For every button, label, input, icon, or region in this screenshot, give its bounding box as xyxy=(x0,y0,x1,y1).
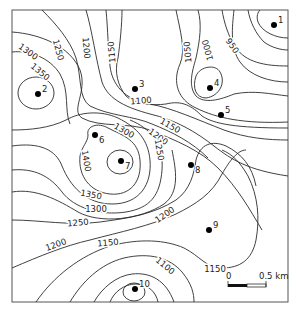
contour-label: 1050 xyxy=(182,41,194,63)
sample-point-marker xyxy=(92,132,98,138)
contour-label: 1250 xyxy=(67,217,89,229)
map-frame xyxy=(12,10,288,302)
contour-label: 1300 xyxy=(17,41,40,62)
contour-label: 1100 xyxy=(154,255,177,277)
sample-point-marker xyxy=(188,162,194,168)
sample-point-label: 6 xyxy=(99,135,104,145)
sample-point-label: 8 xyxy=(195,165,200,175)
sample-point-marker xyxy=(132,286,138,292)
contour-label: 1300 xyxy=(85,204,107,214)
contour-map: 1300135012501200115010501000950110011501… xyxy=(0,0,300,310)
contour-label: 1150 xyxy=(106,41,118,63)
contour-label: 1400 xyxy=(80,149,94,172)
sample-point-marker xyxy=(132,86,138,92)
sample-point-label: 5 xyxy=(225,105,230,115)
sample-point-marker xyxy=(35,91,41,97)
sample-point-label: 10 xyxy=(139,279,150,289)
contour-label: 1200 xyxy=(153,204,176,225)
sample-point-label: 2 xyxy=(42,84,47,94)
contour-label: 1150 xyxy=(97,237,119,249)
contour-label: 950 xyxy=(224,36,242,55)
sample-point-label: 9 xyxy=(213,220,218,230)
contour-lines xyxy=(12,10,288,302)
sample-point-label: 7 xyxy=(125,161,130,171)
sample-point-marker xyxy=(218,112,224,118)
scale-bar-filled xyxy=(228,284,247,287)
contour-label: 1350 xyxy=(29,61,52,83)
contour-label: 1250 xyxy=(51,38,66,61)
scale-bar-empty xyxy=(247,284,266,287)
sample-point-marker xyxy=(118,158,124,164)
scale-start-label: 0 xyxy=(226,271,231,281)
sample-point-marker xyxy=(207,85,213,91)
sample-point-marker xyxy=(206,227,212,233)
scale-bar: 0 0.5 km xyxy=(226,271,288,287)
contour-label: 1000 xyxy=(200,38,215,61)
contour-label: 1350 xyxy=(80,188,103,202)
contour-label: 1200 xyxy=(81,37,93,59)
contour-labels: 1300135012501200115010501000950110011501… xyxy=(17,36,242,276)
scale-end-label: 0.5 km xyxy=(259,271,288,281)
sample-point-label: 3 xyxy=(139,79,144,89)
sample-point-label: 1 xyxy=(278,15,283,25)
contour-label: 1150 xyxy=(204,264,226,274)
sample-point-marker xyxy=(271,22,277,28)
sample-point-label: 4 xyxy=(214,78,219,88)
contour-label: 1100 xyxy=(130,95,152,107)
contour-label: 1300 xyxy=(112,121,136,140)
